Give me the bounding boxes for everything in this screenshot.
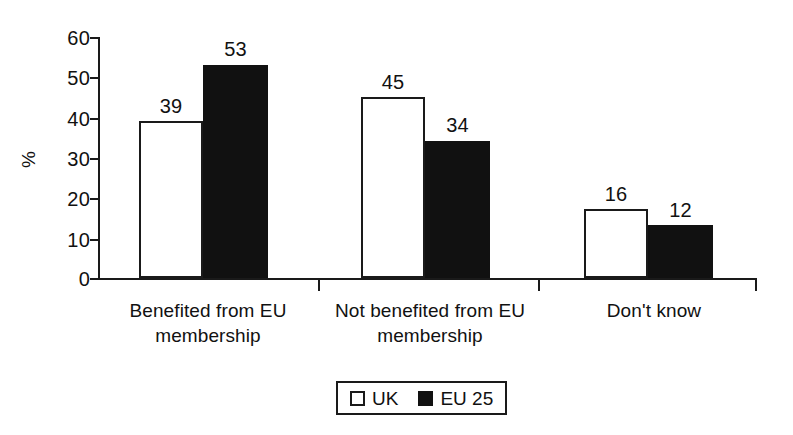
category-label-line-2b: membership bbox=[322, 323, 538, 348]
bar-value-uk-dont-know: 16 bbox=[584, 184, 648, 204]
x-axis-separator-tick-2 bbox=[538, 280, 540, 291]
bar-value-eu25-dont-know: 12 bbox=[648, 200, 713, 220]
bar-eu25-dont-know bbox=[648, 225, 713, 278]
y-tick-label-40: 40 bbox=[44, 109, 90, 129]
legend-item-eu25: EU 25 bbox=[418, 389, 493, 408]
y-axis-line bbox=[98, 37, 100, 280]
y-tick-label-0: 0 bbox=[44, 269, 90, 289]
x-axis-category-label-3: Don't know bbox=[566, 298, 742, 323]
x-axis-line bbox=[98, 278, 757, 280]
category-label-line-1b: membership bbox=[108, 323, 308, 348]
x-axis-category-label-1: Benefited from EU membership bbox=[108, 298, 308, 348]
bar-uk-not-benefited bbox=[361, 97, 425, 278]
bar-eu25-benefited bbox=[203, 65, 268, 278]
chart-legend: UK EU 25 bbox=[336, 381, 507, 415]
category-label-line-1a: Benefited from EU bbox=[108, 298, 308, 323]
hollow-square-swatch-icon bbox=[350, 391, 365, 406]
y-axis-title: % bbox=[19, 136, 38, 184]
legend-item-uk: UK bbox=[350, 389, 398, 408]
y-tick-label-20: 20 bbox=[44, 189, 90, 209]
y-tick-label-60: 60 bbox=[44, 28, 90, 48]
bar-value-uk-not-benefited: 45 bbox=[361, 72, 425, 92]
legend-label-uk: UK bbox=[372, 389, 398, 408]
y-axis-title-wrap: % bbox=[8, 140, 48, 180]
category-label-line-2a: Not benefited from EU bbox=[322, 298, 538, 323]
x-axis-category-label-2: Not benefited from EU membership bbox=[322, 298, 538, 348]
plot-area: % 60 50 40 30 20 10 0 39 53 45 34 bbox=[0, 0, 793, 380]
category-label-line-3a: Don't know bbox=[566, 298, 742, 323]
bar-value-eu25-benefited: 53 bbox=[203, 39, 268, 59]
bar-value-eu25-not-benefited: 34 bbox=[425, 115, 490, 135]
bar-uk-dont-know bbox=[584, 209, 648, 278]
x-axis-end-tick bbox=[755, 280, 757, 291]
x-axis-separator-tick-1 bbox=[318, 280, 320, 291]
filled-square-swatch-icon bbox=[418, 391, 433, 406]
bar-chart: % 60 50 40 30 20 10 0 39 53 45 34 bbox=[0, 0, 793, 435]
y-tick-label-10: 10 bbox=[44, 230, 90, 250]
bar-uk-benefited bbox=[139, 121, 203, 278]
bar-eu25-not-benefited bbox=[425, 141, 490, 278]
y-tick-label-50: 50 bbox=[44, 68, 90, 88]
legend-label-eu25: EU 25 bbox=[440, 389, 493, 408]
bar-value-uk-benefited: 39 bbox=[139, 96, 203, 116]
y-tick-label-30: 30 bbox=[44, 149, 90, 169]
